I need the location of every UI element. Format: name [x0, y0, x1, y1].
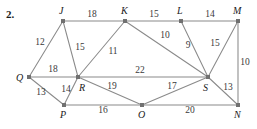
graph-canvas: 1815141215111091510181314221917162013 JK… [0, 0, 257, 129]
vertex-label-k: K [120, 5, 129, 16]
vertex-label-m: M [232, 5, 242, 16]
vertex-label-j: J [59, 5, 64, 16]
graph-edge [29, 21, 63, 77]
edge-weight-label: 13 [223, 82, 233, 92]
edge-weight-label: 18 [48, 64, 58, 74]
graph-vertex-o[interactable] [140, 103, 144, 107]
vertices-layer [27, 19, 240, 107]
vertex-label-n: N [233, 109, 242, 120]
edge-weight-label: 12 [35, 37, 45, 47]
edge-weight-label: 14 [205, 9, 215, 19]
graph-edge [29, 77, 64, 105]
graph-edge [78, 21, 125, 77]
graph-vertex-q[interactable] [27, 75, 31, 79]
graph-vertex-m[interactable] [236, 19, 240, 23]
edge-weight-label: 17 [167, 81, 177, 91]
edge-weight-label: 14 [61, 84, 71, 94]
edge-weight-label: 15 [75, 42, 85, 52]
vertex-label-p: P [59, 109, 66, 120]
edge-weight-label: 18 [87, 9, 97, 19]
vertex-label-o: O [138, 109, 145, 120]
graph-vertex-s[interactable] [206, 75, 210, 79]
graph-vertex-l[interactable] [179, 19, 183, 23]
edge-weight-label: 11 [108, 46, 117, 56]
vertex-label-q: Q [16, 72, 24, 83]
graph-vertex-n[interactable] [236, 103, 240, 107]
edge-weight-label: 20 [185, 105, 195, 115]
vertex-label-l: L [176, 5, 183, 16]
graph-vertex-k[interactable] [123, 19, 127, 23]
graph-vertex-p[interactable] [62, 103, 66, 107]
edge-weight-label: 19 [107, 81, 117, 91]
edge-weight-label: 9 [186, 40, 191, 50]
edge-weight-label: 13 [36, 87, 46, 97]
vertex-label-s: S [203, 82, 208, 93]
edge-weight-label: 16 [98, 105, 108, 115]
edge-weight-label: 15 [210, 38, 220, 48]
graph-vertex-j[interactable] [61, 19, 65, 23]
graph-edge [208, 21, 238, 77]
edge-weight-label: 15 [149, 9, 159, 19]
vertex-labels-layer: JKLMQRSPON [16, 5, 242, 120]
graph-figure: 2. 1815141215111091510181314221917162013… [0, 0, 257, 129]
edge-weight-label: 10 [160, 30, 170, 40]
graph-vertex-r[interactable] [76, 75, 80, 79]
edge-weight-label: 10 [240, 57, 250, 67]
edge-weight-label: 22 [135, 65, 145, 75]
vertex-label-r: R [78, 82, 85, 93]
